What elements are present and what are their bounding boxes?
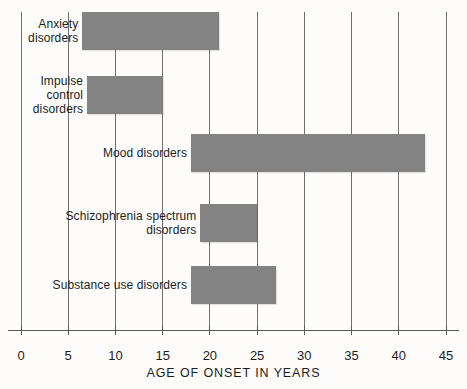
category-label: Impulse control disorders [0,74,83,116]
gridline [446,12,447,330]
tick-mark [115,326,116,335]
tick-mark [351,326,352,335]
x-tick-label: 5 [48,348,88,363]
chart-figure: Anxiety disordersImpulse control disorde… [0,0,467,389]
category-label: Mood disorders [0,146,187,160]
tick-mark [162,326,163,335]
bar-range [82,12,219,50]
plot-area: Anxiety disordersImpulse control disorde… [0,0,467,340]
category-label: Anxiety disorders [0,17,78,45]
bar-range [191,266,276,304]
bar-range [191,134,425,172]
x-tick-label: 40 [379,348,419,363]
tick-mark [304,326,305,335]
tick-mark [21,326,22,335]
x-tick-label: 10 [95,348,135,363]
x-axis-title: AGE OF ONSET IN YEARS [0,366,467,380]
x-tick-label: 35 [332,348,372,363]
bar-range [87,76,163,114]
tick-mark [209,326,210,335]
category-label: Substance use disorders [0,278,187,292]
tick-mark [257,326,258,335]
bar-range [200,204,257,242]
tick-mark [446,326,447,335]
x-tick-label: 20 [190,348,230,363]
tick-mark [68,326,69,335]
x-tick-label: 0 [1,348,41,363]
x-axis-line [8,330,459,331]
x-tick-label: 30 [284,348,324,363]
category-label: Schizophrenia spectrum disorders [0,209,196,237]
x-tick-label: 25 [237,348,277,363]
tick-mark [398,326,399,335]
x-tick-label: 15 [143,348,183,363]
x-tick-label: 45 [426,348,466,363]
